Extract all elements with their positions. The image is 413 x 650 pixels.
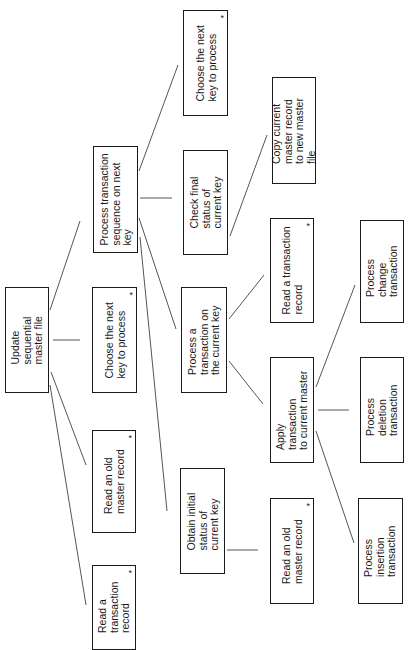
node-proc-insertion: Process insertion transaction <box>358 498 403 604</box>
iteration-marker-icon: * <box>129 291 133 300</box>
edge-proc-txn-current-to-read-txn-2 <box>229 275 264 319</box>
node-label: Read an old master record <box>281 519 304 584</box>
node-read-old-2: Read an old master record* <box>270 498 314 604</box>
node-root: Update sequential master file <box>5 287 49 393</box>
node-label: Apply transaction to current master <box>275 371 310 450</box>
node-label: Choose the next key to process <box>194 25 217 101</box>
node-read-txn-2: Read a transaction record* <box>270 218 314 323</box>
node-label: Process insertion transaction <box>363 526 398 577</box>
node-apply-txn: Apply transaction to current master <box>270 357 314 463</box>
node-check-final: Check final status of current key <box>183 150 228 255</box>
edge-apply-txn-to-proc-change <box>316 285 355 387</box>
iteration-marker-icon: * <box>306 502 310 511</box>
node-proc-txn-current: Process a transaction on the current key <box>181 287 227 393</box>
node-label: Check final status of current key <box>188 177 223 229</box>
iteration-marker-icon: * <box>128 569 132 578</box>
edge-proc-seq-to-obtain-initial <box>140 237 167 511</box>
node-read-txn-1: Read a transaction record* <box>92 565 136 650</box>
node-copy-master: Copy current master record to new master… <box>272 77 316 184</box>
edge-proc-txn-current-to-apply-txn <box>229 361 263 404</box>
node-label: Obtain initial status of current key <box>185 492 220 550</box>
node-obtain-initial: Obtain initial status of current key <box>180 468 225 574</box>
edge-check-final-to-copy-master <box>230 135 267 236</box>
node-label: Read a transaction record <box>281 227 304 315</box>
node-read-old-1: Read an old master record* <box>92 430 136 533</box>
node-label: Process a transaction on the current key <box>187 306 222 375</box>
iteration-marker-icon: * <box>220 14 224 23</box>
iteration-marker-icon: * <box>128 434 132 443</box>
edge-proc-seq-to-proc-txn-current <box>139 218 176 329</box>
node-label: Choose the next key to process <box>103 302 126 378</box>
node-proc-deletion: Process deletion transaction <box>360 357 404 463</box>
iteration-marker-icon: * <box>306 222 310 231</box>
node-proc-change: Process change transaction <box>360 220 404 323</box>
edge-root-to-read-old-1 <box>51 372 86 465</box>
node-label: Process change transaction <box>365 246 400 297</box>
node-label: Copy current master record to new master… <box>271 98 317 164</box>
node-choose-key-1: Choose the next key to process* <box>92 287 137 393</box>
node-label: Process transaction sequence on next key <box>98 154 133 246</box>
edge-proc-seq-to-choose-key-2 <box>139 65 178 171</box>
node-choose-key-2: Choose the next key to process* <box>183 10 228 116</box>
node-label: Read a transaction record <box>97 582 132 633</box>
edge-root-to-proc-seq <box>50 221 80 310</box>
node-proc-seq: Process transaction sequence on next key <box>93 146 138 253</box>
node-label: Read an old master record <box>103 449 126 514</box>
node-label: Process deletion transaction <box>365 385 400 436</box>
node-label: Update sequential master file <box>10 316 45 364</box>
edge-apply-txn-to-proc-insertion <box>316 431 354 543</box>
